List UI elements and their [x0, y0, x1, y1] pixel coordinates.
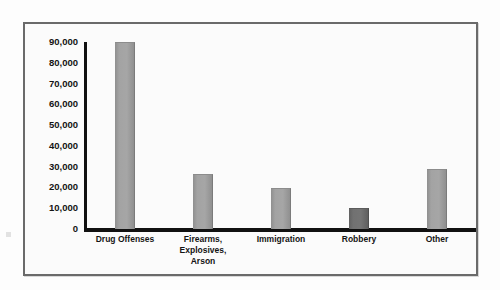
- x-axis-category-label: Other: [426, 234, 449, 245]
- bar: [115, 42, 135, 229]
- x-axis-category-label: Firearms, Explosives, Arson: [180, 234, 227, 267]
- y-axis-tick-label: 80,000: [49, 58, 78, 68]
- y-axis-tick-label: 60,000: [49, 99, 78, 109]
- x-axis-category-label: Immigration: [257, 234, 306, 245]
- bar: [271, 188, 291, 229]
- page-speck-artifact: [6, 232, 11, 237]
- y-axis-tick-label: 0: [73, 224, 78, 234]
- bar: [427, 169, 447, 229]
- scanned-page: 90,00080,00070,00060,00050,00040,00030,0…: [0, 0, 500, 290]
- plot-area: [86, 42, 476, 229]
- y-axis-tick-label: 40,000: [49, 141, 78, 151]
- chart-frame: 90,00080,00070,00060,00050,00040,00030,0…: [23, 22, 478, 276]
- y-axis-tick-label: 70,000: [49, 79, 78, 89]
- x-axis-category-label: Drug Offenses: [96, 234, 155, 245]
- bar: [193, 174, 213, 229]
- y-axis-tick-label: 20,000: [49, 182, 78, 192]
- y-axis-tick-label: 30,000: [49, 162, 78, 172]
- x-axis-category-label: Robbery: [342, 234, 376, 245]
- y-axis-tick-label: 90,000: [49, 37, 78, 47]
- y-axis-tick-label: 10,000: [49, 203, 78, 213]
- y-axis-tick-label: 50,000: [49, 120, 78, 130]
- bar: [349, 208, 369, 229]
- y-axis-tick-labels: 90,00080,00070,00060,00050,00040,00030,0…: [25, 24, 82, 239]
- x-axis-category-labels: Drug OffensesFirearms, Explosives, Arson…: [86, 234, 476, 278]
